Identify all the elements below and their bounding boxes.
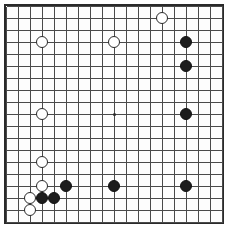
stone-white[interactable] [36,156,48,168]
hoshi-point [113,113,116,116]
stone-black[interactable] [108,180,120,192]
stone-white[interactable] [36,36,48,48]
stone-white[interactable] [156,12,168,24]
stone-white[interactable] [108,36,120,48]
go-board-container [0,0,228,230]
stone-black[interactable] [180,60,192,72]
stone-black[interactable] [180,36,192,48]
stone-black[interactable] [36,192,48,204]
stone-white[interactable] [36,180,48,192]
stone-black[interactable] [48,192,60,204]
stone-layer [0,0,228,230]
stone-black[interactable] [180,180,192,192]
stone-black[interactable] [180,108,192,120]
stone-white[interactable] [36,108,48,120]
stone-white[interactable] [24,204,36,216]
stone-white[interactable] [24,192,36,204]
stone-black[interactable] [60,180,72,192]
